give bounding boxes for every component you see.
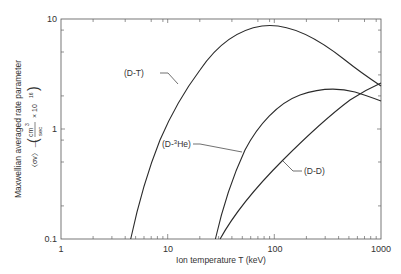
leader-d-t — [160, 73, 178, 84]
x-tick-1: 1 — [58, 244, 63, 254]
plot-frame — [61, 19, 381, 239]
units-multiplier: × 10 — [31, 104, 38, 118]
leader-d-d — [283, 161, 302, 171]
y-axis-title-units: 〈σv〉 — ( cm 3 sec × 10 16 ) — [24, 86, 43, 171]
open-paren: ( — [25, 138, 41, 143]
units-exponent: 16 — [28, 92, 34, 98]
x-axis-title: Ion temperature T (keV) — [176, 255, 266, 265]
y-tick-10: 10 — [47, 14, 57, 24]
x-tick-100: 100 — [267, 244, 282, 254]
label-d-d: (D-D) — [304, 166, 325, 176]
x-tick-10: 10 — [163, 244, 173, 254]
sigma-v-symbol: 〈σv〉 — — [31, 140, 38, 171]
rate-parameter-chart: 10 1 0.1 1 10 100 1000 Ion temperature T… — [0, 0, 401, 274]
y-axis-ticks — [61, 30, 381, 206]
label-d-he3: (D-3He) — [162, 139, 191, 149]
label-d-t: (D-T) — [124, 68, 144, 78]
y-tick-0.1: 0.1 — [44, 234, 57, 244]
leader-d-he3 — [193, 144, 242, 152]
units-denominator: sec — [37, 127, 43, 136]
units-numerator-exp: 3 — [24, 123, 30, 126]
y-axis-title: Maxwellian averaged rate parameter 〈σv〉 … — [13, 60, 43, 198]
y-tick-1: 1 — [52, 124, 57, 134]
units-numerator: cm — [27, 128, 34, 138]
curve-d-he3 — [215, 89, 381, 239]
curve-d-d — [220, 83, 381, 239]
x-tick-1000: 1000 — [371, 244, 391, 254]
y-axis-title-main: Maxwellian averaged rate parameter — [13, 60, 23, 198]
close-paren: ) — [25, 86, 41, 91]
